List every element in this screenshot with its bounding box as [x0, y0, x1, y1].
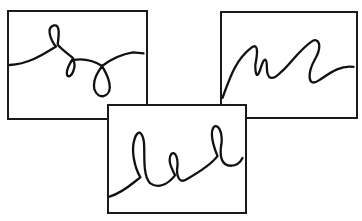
panel-zigzag-wave	[220, 11, 358, 119]
loop-wave-curve	[9, 12, 146, 118]
zigzag-wave-curve	[222, 13, 356, 117]
cursive-loops-curve	[109, 106, 245, 212]
panel-cursive-loops	[107, 104, 247, 214]
